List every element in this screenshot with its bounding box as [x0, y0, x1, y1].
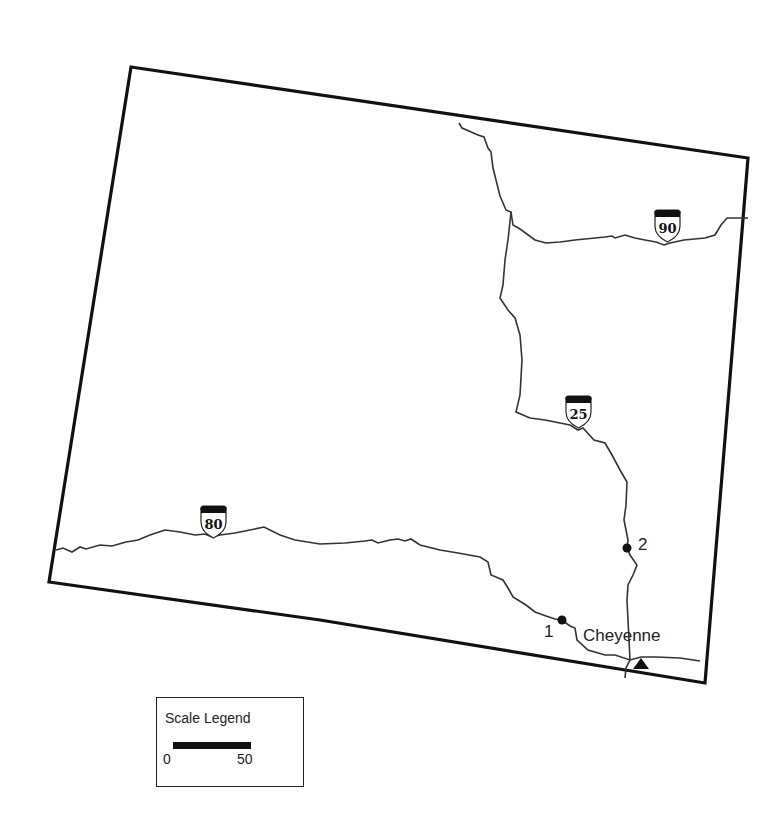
shield-label: 90 [658, 221, 676, 236]
point-2-label: 2 [638, 535, 647, 555]
scale-bar [173, 742, 251, 749]
point-1-marker-icon [558, 616, 567, 625]
highway-i90-road [459, 123, 748, 245]
scale-legend: Scale Legend 0 50 [156, 697, 304, 787]
map-canvas: 90 25 80 [0, 0, 782, 836]
legend-min-label: 0 [163, 751, 171, 767]
highway-i25-road [500, 212, 637, 678]
point-2-marker-icon [623, 544, 632, 553]
legend-max-label: 50 [237, 751, 253, 767]
cheyenne-triangle-icon [633, 658, 649, 669]
shield-label: 25 [569, 407, 587, 422]
city-label-cheyenne: Cheyenne [583, 626, 661, 646]
state-border [49, 67, 748, 683]
legend-title: Scale Legend [165, 710, 251, 726]
interstate-shield-25-icon: 25 [566, 396, 592, 428]
interstate-shield-80-icon: 80 [201, 506, 227, 538]
shield-label: 80 [204, 517, 222, 532]
point-1-label: 1 [544, 622, 553, 642]
interstate-shield-90-icon: 90 [655, 210, 681, 242]
